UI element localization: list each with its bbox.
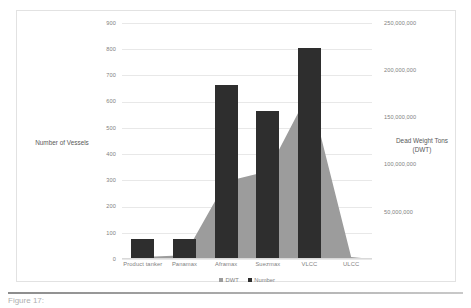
x-label-product-tanker: Product tanker [122, 261, 164, 267]
legend-label: Number [254, 277, 275, 283]
legend-item-number[interactable]: Number [248, 277, 275, 283]
legend-swatch-icon [248, 278, 252, 282]
x-label-panamax: Panamax [164, 261, 206, 267]
caption-divider [8, 292, 463, 294]
bar-vlcc [298, 48, 321, 259]
gridline [122, 259, 372, 260]
chart-figure: Number of Vessels Dead Weight Tons (DWT)… [16, 10, 456, 282]
left-tick-900: 900 [76, 20, 116, 26]
legend-swatch-icon [219, 278, 223, 282]
right-tick-200,000,000: 200,000,000 [384, 67, 444, 73]
right-tick-100,000,000: 100,000,000 [384, 161, 444, 167]
x-label-suezmax: Suezmax [247, 261, 289, 267]
left-tick-500: 500 [76, 125, 116, 131]
legend-label: DWT [226, 277, 239, 283]
right-axis-title: Dead Weight Tons (DWT) [391, 137, 453, 154]
left-tick-600: 600 [76, 98, 116, 104]
x-axis-line [122, 258, 372, 259]
figure-caption: Figure 17: [8, 296, 463, 308]
bar-panamax [173, 239, 196, 259]
plot-area [122, 23, 372, 259]
x-label-vlcc: VLCC [289, 261, 331, 267]
right-tick-250,000,000: 250,000,000 [384, 20, 444, 26]
left-tick-0: 0 [76, 256, 116, 262]
bar-aframax [215, 85, 238, 259]
chart-legend: DWTNumber [122, 275, 372, 285]
right-tick-50,000,000: 50,000,000 [384, 209, 444, 215]
left-tick-100: 100 [76, 230, 116, 236]
page-root: Number of Vessels Dead Weight Tons (DWT)… [0, 0, 471, 308]
left-tick-200: 200 [76, 203, 116, 209]
x-label-aframax: Aframax [205, 261, 247, 267]
bar-suezmax [256, 111, 279, 259]
x-axis-category-labels: Product tankerPanamaxAframaxSuezmaxVLCCU… [122, 261, 372, 273]
left-tick-300: 300 [76, 177, 116, 183]
left-tick-700: 700 [76, 72, 116, 78]
right-tick-150,000,000: 150,000,000 [384, 114, 444, 120]
legend-item-dwt[interactable]: DWT [219, 277, 239, 283]
left-tick-400: 400 [76, 151, 116, 157]
x-label-ulcc: ULCC [330, 261, 372, 267]
number-bar-series [122, 23, 372, 259]
bar-product-tanker [131, 239, 154, 259]
left-axis-title: Number of Vessels [31, 139, 93, 148]
left-tick-800: 800 [76, 46, 116, 52]
